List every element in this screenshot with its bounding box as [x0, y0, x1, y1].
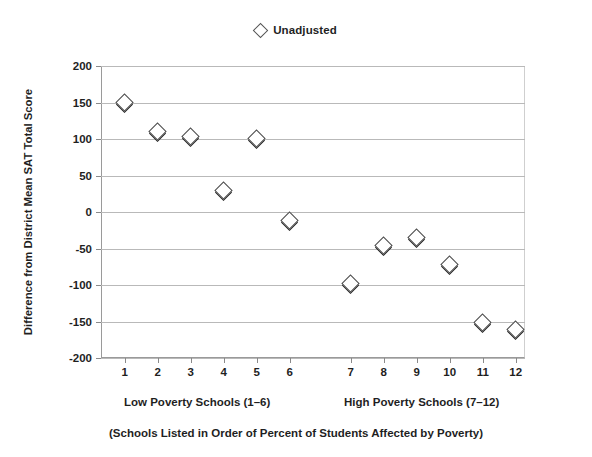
gridline	[101, 212, 525, 213]
x-tick-label: 6	[287, 366, 293, 378]
x-tick-mark	[384, 358, 385, 363]
y-tick-mark	[96, 212, 101, 213]
y-tick-mark	[96, 322, 101, 323]
x-tick-label: 12	[509, 366, 522, 378]
y-tick-mark	[96, 66, 101, 67]
y-tick-label: -50	[75, 243, 92, 255]
y-tick-mark	[96, 358, 101, 359]
y-tick-mark	[96, 176, 101, 177]
x-tick-label: 5	[254, 366, 260, 378]
x-tick-mark	[158, 358, 159, 363]
chart-plot-wrapper: 200150100500-50-100-150-200 123456789101…	[101, 66, 525, 358]
y-tick-label: 200	[73, 60, 92, 72]
x-tick-mark	[191, 358, 192, 363]
y-tick-label: 50	[79, 170, 92, 182]
x-tick-mark	[417, 358, 418, 363]
diamond-marker-icon	[253, 22, 269, 38]
y-axis-title: Difference from District Mean SAT Total …	[22, 66, 38, 358]
y-tick-label: 100	[73, 133, 92, 145]
chart-legend: Unadjusted	[0, 24, 592, 36]
y-tick-label: 150	[73, 97, 92, 109]
x-tick-mark	[483, 358, 484, 363]
x-tick-label: 1	[122, 366, 128, 378]
caption-footer: (Schools Listed in Order of Percent of S…	[0, 427, 592, 439]
x-tick-mark	[351, 358, 352, 363]
x-tick-mark	[450, 358, 451, 363]
gridline	[101, 139, 525, 140]
gridline	[101, 358, 525, 359]
y-tick-mark	[96, 139, 101, 140]
x-tick-label: 9	[414, 366, 420, 378]
x-tick-label: 7	[348, 366, 354, 378]
y-tick-label: 0	[86, 206, 92, 218]
x-tick-label: 11	[477, 366, 489, 378]
y-tick-label: -200	[69, 352, 92, 364]
caption-low-poverty: Low Poverty Schools (1–6)	[124, 396, 270, 408]
x-tick-label: 8	[381, 366, 387, 378]
gridline	[101, 249, 525, 250]
x-tick-label: 3	[188, 366, 194, 378]
caption-high-poverty: High Poverty Schools (7–12)	[344, 396, 499, 408]
x-tick-mark	[125, 358, 126, 363]
legend-label: Unadjusted	[273, 24, 337, 36]
x-tick-mark	[257, 358, 258, 363]
y-tick-label: -150	[69, 316, 92, 328]
x-tick-label: 10	[443, 366, 456, 378]
gridline	[101, 322, 525, 323]
gridline	[101, 103, 525, 104]
y-tick-mark	[96, 285, 101, 286]
gridline	[101, 176, 525, 177]
y-tick-mark	[96, 103, 101, 104]
y-tick-mark	[96, 249, 101, 250]
x-tick-mark	[516, 358, 517, 363]
gridline	[101, 285, 525, 286]
x-tick-mark	[290, 358, 291, 363]
x-tick-mark	[224, 358, 225, 363]
y-tick-label: -100	[69, 279, 92, 291]
gridline	[101, 66, 525, 67]
x-tick-label: 2	[155, 366, 161, 378]
x-tick-label: 4	[221, 366, 227, 378]
